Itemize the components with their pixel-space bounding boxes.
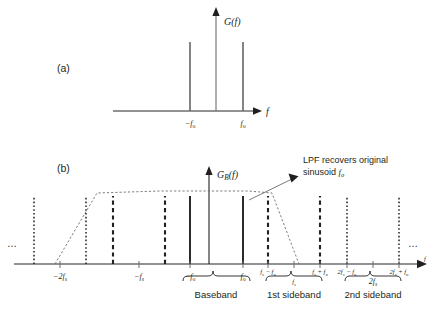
panel-b-tick-label-fs: fs (292, 278, 296, 287)
ellipsis-right: … (408, 238, 419, 249)
panel-b-tick-label-2fs-plus-fo: 2fs + fo (390, 268, 410, 277)
panel-b-tick-label-negfo: −fo (185, 272, 196, 282)
panel-b-x-axis-label: f (424, 255, 427, 262)
panel-b-label: (b) (57, 162, 70, 174)
sampling-spectrum-figure: (a) G(f) f −fo fo (b) GB(f) f … … LPF re… (0, 0, 436, 313)
panel-b-tick-label-neg2fs: −2fs (53, 272, 68, 282)
panel-a-x-axis-label: f (266, 106, 270, 117)
figure-text-layer: (a) G(f) f −fo fo (b) GB(f) f … … LPF re… (0, 0, 436, 313)
panel-a-y-axis-label: G(f) (224, 16, 241, 28)
panel-a-label: (a) (57, 62, 70, 74)
panel-a-tick-label-neg-fo: −fo (185, 119, 196, 129)
brace-label-1st-sideband: 1st sideband (267, 289, 321, 300)
panel-b-y-axis-label: GB(f) (217, 169, 239, 182)
ellipsis-left: … (7, 238, 18, 249)
lpf-annotation-line2: sinusoid fo (303, 167, 345, 178)
brace-label-baseband: Baseband (195, 289, 238, 300)
panel-b-tick-label-2fs-minus-fo: 2fs − fo (338, 268, 358, 277)
panel-b-tick-label-negfs: −fs (134, 272, 145, 282)
panel-b-tick-label-fs-minus-fo: fs − fo (260, 268, 276, 277)
panel-b-tick-label-fs-plus-fo: fs + fo (312, 268, 328, 277)
lpf-annotation-line1: LPF recovers original (303, 155, 388, 165)
brace-label-2nd-sideband: 2nd sideband (344, 289, 401, 300)
panel-b-tick-label-fo: fo (240, 272, 245, 282)
panel-b-tick-label-2fs: 2fs (369, 277, 378, 287)
panel-a-tick-label-pos-fo: fo (240, 119, 245, 129)
